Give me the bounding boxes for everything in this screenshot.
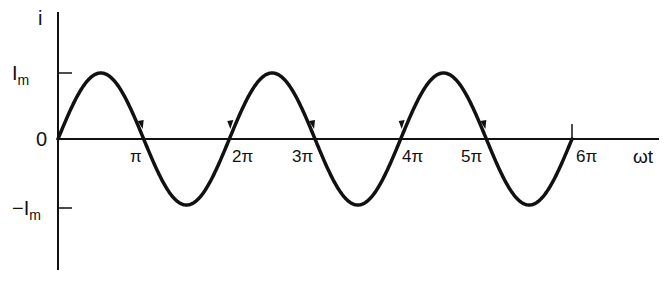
- y-axis-label: i: [38, 7, 42, 29]
- x-tick-pi: π: [130, 147, 142, 166]
- x-tick-3pi: 3π: [292, 147, 313, 166]
- y-tick-im: Im: [12, 62, 29, 88]
- y-tick-neg-im: −Im: [12, 197, 41, 223]
- x-tick-6pi: 6π: [576, 147, 597, 166]
- x-tick-4pi: 4π: [402, 147, 423, 166]
- x-tick-2pi: 2π: [232, 147, 253, 166]
- x-axis-label: ωt: [633, 146, 654, 167]
- x-tick-5pi: 5π: [461, 147, 482, 166]
- diagram-canvas: i Im 0 −Im π 2π 3π 4π 5π 6π ωt: [0, 0, 672, 282]
- y-tick-zero: 0: [36, 128, 47, 150]
- sine-current-diagram: i Im 0 −Im π 2π 3π 4π 5π 6π ωt: [0, 0, 672, 282]
